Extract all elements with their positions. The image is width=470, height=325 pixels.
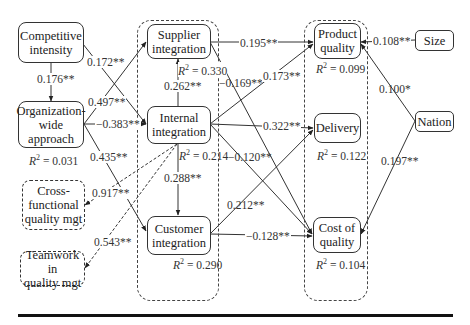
node-teamwork-in-quality-mgt: Teamwork in quality mgt <box>20 251 85 286</box>
r2-superscript: 2 <box>324 148 328 157</box>
node-label: quality <box>320 41 355 55</box>
r2-value: = 0.330 <box>192 65 227 77</box>
node-label: Competitive <box>20 29 82 43</box>
node-label: quality mgt <box>25 212 82 226</box>
node-customer-integration: Customer integration <box>147 216 211 255</box>
coef-nat-coq: 0.197** <box>380 155 419 167</box>
r2-symbol: R <box>316 63 323 75</box>
r2-symbol: R <box>179 150 186 162</box>
r2-superscript: 2 <box>36 153 40 162</box>
coef-org-int: −0.383** <box>95 118 141 130</box>
r2-symbol: R <box>29 155 36 167</box>
node-product-quality: Product quality <box>314 23 361 59</box>
structural-equation-model-diagram: Competitive intensity Organization- wide… <box>0 0 470 325</box>
node-label: Nation <box>417 115 451 129</box>
r2-value: = 0.214 <box>193 150 228 162</box>
coef-int-team: 0.543** <box>93 236 132 248</box>
node-cross-functional-quality-mgt: Cross- functional quality mgt <box>22 180 85 230</box>
node-cost-of-quality: Cost of quality <box>313 217 361 253</box>
node-organization-wide-approach: Organization- wide approach <box>18 101 84 148</box>
node-delivery: Delivery <box>314 113 361 143</box>
node-label: integration <box>152 42 206 56</box>
node-label: Size <box>424 34 446 48</box>
r2-value: = 0.099 <box>330 63 365 75</box>
r2-symbol: R <box>316 259 323 271</box>
node-label: Customer <box>155 222 204 236</box>
coef-int-sup: 0.262** <box>163 80 202 92</box>
coef-org-cus: 0.435** <box>89 151 128 163</box>
node-size: Size <box>415 30 454 51</box>
node-label: Internal <box>160 111 199 125</box>
node-label: approach <box>28 132 74 146</box>
coef-sup-pq: 0.195** <box>239 37 278 49</box>
r2-symbol: R <box>173 259 180 271</box>
r2-supplier: R2 = 0.330 <box>178 62 227 77</box>
node-competitive-intensity: Competitive intensity <box>18 22 84 63</box>
r2-superscript: 2 <box>323 257 327 266</box>
r2-customer: R2 = 0.290 <box>173 256 222 271</box>
r2-superscript: 2 <box>323 61 327 70</box>
node-supplier-integration: Supplier integration <box>147 24 211 59</box>
coef-sup-coq: −0.169** <box>218 77 264 89</box>
r2-value: = 0.104 <box>330 259 365 271</box>
node-label: quality mgt <box>24 276 81 290</box>
node-label: quality <box>320 235 355 249</box>
bottom-rule-divider <box>18 314 453 317</box>
node-label: intensity <box>29 43 72 57</box>
r2-cost-of-quality: R2 = 0.104 <box>316 256 365 271</box>
node-label: wide <box>39 118 63 132</box>
r2-product-quality: R2 = 0.099 <box>316 60 365 75</box>
node-label: Supplier <box>158 28 200 42</box>
r2-superscript: 2 <box>185 63 189 72</box>
node-label: Cost of <box>319 221 355 235</box>
r2-value: = 0.031 <box>43 155 78 167</box>
coef-cus-coq: −0.128** <box>245 230 291 242</box>
r2-superscript: 2 <box>186 148 190 157</box>
coef-org-sup: 0.497** <box>87 96 126 108</box>
r2-symbol: R <box>317 150 324 162</box>
node-label: Product <box>318 27 357 41</box>
coef-cus-del: 0.212** <box>226 199 265 211</box>
coef-int-coq: −0.120** <box>227 151 273 163</box>
node-label: integration <box>152 236 206 250</box>
r2-superscript: 2 <box>180 257 184 266</box>
node-label: integration <box>152 125 206 139</box>
coef-nat-pq: 0.100* <box>378 83 412 95</box>
coef-int-pq: 0.173** <box>262 70 301 82</box>
r2-org-wide: R2 = 0.031 <box>29 152 78 167</box>
node-nation: Nation <box>415 111 454 132</box>
r2-value: = 0.290 <box>187 259 222 271</box>
node-label: Organization- <box>16 104 85 118</box>
node-label: functional <box>28 198 79 212</box>
path-int-coq <box>210 124 312 234</box>
node-label: Cross- <box>37 184 70 198</box>
coef-int-cross: 0.917** <box>91 187 130 199</box>
coef-ci-org: 0.176** <box>36 73 75 85</box>
r2-internal: R2 = 0.214 <box>179 147 228 162</box>
r2-value: = 0.122 <box>331 150 366 162</box>
r2-delivery: R2 = 0.122 <box>317 147 366 162</box>
coef-int-cus: 0.288** <box>163 172 202 184</box>
coef-int-del: 0.322** <box>262 120 301 132</box>
path-nat-coq <box>361 121 415 234</box>
coef-ci-int: 0.172** <box>86 56 125 68</box>
node-label: Delivery <box>316 121 360 135</box>
r2-symbol: R <box>178 65 185 77</box>
coef-size-pq: 0.108** <box>372 35 411 47</box>
node-label: Teamwork in <box>21 248 84 276</box>
node-internal-integration: Internal integration <box>147 106 211 144</box>
